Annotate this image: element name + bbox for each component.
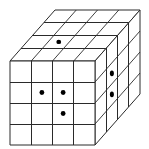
right-face-dot — [110, 92, 114, 98]
right-face-dot — [110, 71, 114, 77]
front-face — [10, 61, 95, 145]
front-face-dot — [61, 111, 66, 116]
cube-grid-figure — [0, 0, 149, 149]
cube-diagram — [0, 0, 149, 149]
front-face-dot — [39, 90, 44, 95]
front-face-dot — [61, 90, 66, 95]
top-face-dot — [56, 40, 61, 44]
